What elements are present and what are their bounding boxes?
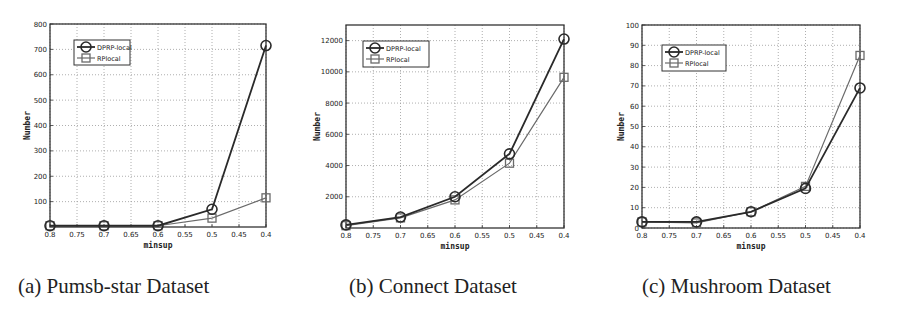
x-tick-label: 0.65 xyxy=(123,231,139,239)
x-axis-label: minsup xyxy=(737,241,766,251)
x-tick-label: 0.4 xyxy=(260,231,272,239)
y-tick-label: 400 xyxy=(34,122,47,130)
y-tick-label: 8000 xyxy=(325,100,343,108)
line-chart-connect: 0.80.750.70.650.60.550.50.450.4200040006… xyxy=(300,0,600,270)
y-tick-label: 4000 xyxy=(325,162,343,170)
line-chart-pumsb-star: 0.80.750.70.650.60.550.50.450.4100200300… xyxy=(0,0,300,270)
y-axis-label: Number xyxy=(617,112,626,141)
x-tick-label: 0.7 xyxy=(98,231,109,239)
x-tick-label: 0.7 xyxy=(395,232,406,240)
x-tick-label: 0.55 xyxy=(177,231,193,239)
line-chart-mushroom: 0.80.750.70.650.60.550.50.450.4010203040… xyxy=(600,0,898,270)
y-tick-label: 700 xyxy=(34,46,47,54)
y-tick-label: 200 xyxy=(34,173,47,181)
y-tick-label: 90 xyxy=(630,42,639,50)
legend-label: RPlocal xyxy=(386,56,410,64)
legend: DPRP-localRPlocal xyxy=(662,45,726,71)
legend-label: DPRP-local xyxy=(97,44,132,52)
x-tick-label: 0.65 xyxy=(716,232,732,240)
x-tick-label: 0.45 xyxy=(231,231,247,239)
y-tick-label: 30 xyxy=(630,164,639,172)
legend: DPRP-localRPlocal xyxy=(363,41,429,67)
y-axis-label: Number xyxy=(313,112,322,141)
x-tick-label: 0.7 xyxy=(691,232,702,240)
x-tick-label: 0.45 xyxy=(529,232,545,240)
axis-ticks: 0.80.750.70.650.60.550.50.450.4200040006… xyxy=(321,37,570,240)
x-tick-label: 0.45 xyxy=(825,232,841,240)
y-tick-label: 80 xyxy=(630,62,639,70)
y-tick-label: 800 xyxy=(34,21,47,29)
y-tick-label: 70 xyxy=(630,82,639,90)
legend-label: RPlocal xyxy=(685,60,709,68)
legend-label: DPRP-local xyxy=(685,49,720,57)
caption-pumsb-star: (a) Pumsb-star Dataset xyxy=(18,274,209,299)
x-tick-label: 0.55 xyxy=(474,232,490,240)
chart-panel-pumsb-star: 0.80.750.70.650.60.550.50.450.4100200300… xyxy=(0,0,300,323)
x-tick-label: 0.5 xyxy=(800,232,811,240)
x-tick-label: 0.8 xyxy=(340,232,351,240)
x-tick-label: 0.8 xyxy=(44,231,55,239)
y-tick-label: 50 xyxy=(630,123,639,131)
x-axis-label: minsup xyxy=(441,241,470,251)
x-tick-label: 0.5 xyxy=(504,232,515,240)
y-tick-label: 6000 xyxy=(325,131,343,139)
x-tick-label: 0.6 xyxy=(745,232,757,240)
x-tick-label: 0.65 xyxy=(420,232,436,240)
y-tick-label: 10 xyxy=(630,204,639,212)
x-tick-label: 0.4 xyxy=(854,232,866,240)
legend-label: DPRP-local xyxy=(386,45,421,53)
y-tick-label: 300 xyxy=(34,147,47,155)
axis-ticks: 0.80.750.70.650.60.550.50.450.4100200300… xyxy=(34,21,272,240)
chart-panel-connect: 0.80.750.70.650.60.550.50.450.4200040006… xyxy=(300,0,600,323)
x-axis-label: minsup xyxy=(144,240,173,250)
y-tick-label: 100 xyxy=(34,198,47,206)
y-tick-label: 40 xyxy=(630,143,639,151)
caption-connect: (b) Connect Dataset xyxy=(349,274,517,299)
x-tick-label: 0.8 xyxy=(636,232,647,240)
x-tick-label: 0.6 xyxy=(449,232,461,240)
y-tick-label: 10000 xyxy=(321,68,343,76)
y-tick-label: 20 xyxy=(630,184,639,192)
x-tick-label: 0.75 xyxy=(365,232,381,240)
y-axis-label: Number xyxy=(23,111,32,140)
y-tick-label: 2000 xyxy=(325,193,343,201)
x-tick-label: 0.6 xyxy=(152,231,164,239)
x-tick-label: 0.55 xyxy=(770,232,786,240)
y-tick-label: 500 xyxy=(34,97,47,105)
y-tick-label: 60 xyxy=(630,103,639,111)
x-tick-label: 0.75 xyxy=(69,231,85,239)
x-tick-label: 0.5 xyxy=(206,231,217,239)
chart-panel-mushroom: 0.80.750.70.650.60.550.50.450.4010203040… xyxy=(600,0,898,323)
y-tick-label: 12000 xyxy=(321,37,343,45)
y-tick-label: 600 xyxy=(34,71,47,79)
x-tick-label: 0.4 xyxy=(558,232,570,240)
x-tick-label: 0.75 xyxy=(661,232,677,240)
caption-mushroom: (c) Mushroom Dataset xyxy=(642,274,831,299)
legend: DPRP-localRPlocal xyxy=(74,40,132,65)
y-tick-label: 100 xyxy=(626,22,639,30)
legend-label: RPlocal xyxy=(97,55,121,63)
